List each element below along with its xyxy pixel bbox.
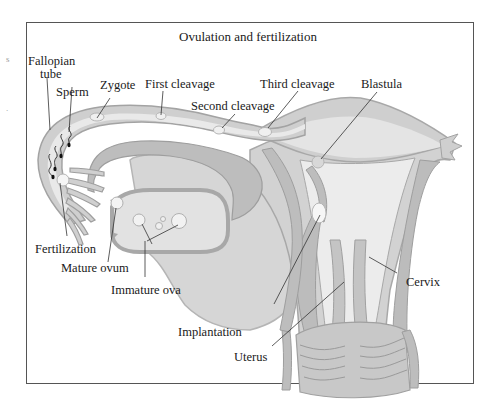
immature-ovum [161,217,166,222]
label-immature-ova: Immature ova [111,284,181,297]
vaginal-wall-left [282,330,292,390]
label-second-cleavage: Second cleavage [191,100,275,113]
ovary [112,190,228,252]
immature-ovum [156,223,163,230]
label-blastula: Blastula [361,78,402,91]
label-fallopian-tube-line2: tube [40,68,62,81]
immature-ovum [133,214,145,226]
label-sperm: Sperm [56,86,89,99]
leader-fallopian-tube [47,78,50,130]
diagram-stage: s . [0,0,497,416]
vagina [296,322,410,398]
fimbriae [66,168,104,245]
zygote-cell [90,113,104,121]
figure-title: Ovulation and fertilization [179,29,317,45]
implanted-embryo [312,203,326,223]
label-zygote: Zygote [100,79,135,92]
mature-ovum [111,197,123,209]
label-fertilization: Fertilization [35,243,96,256]
immature-ovum [172,214,187,229]
third-cleavage-cell [259,128,272,137]
label-uterus: Uterus [234,351,267,364]
label-implantation: Implantation [178,326,242,339]
label-mature-ovum: Mature ovum [61,262,129,275]
label-third-cleavage: Third cleavage [260,78,335,91]
label-fallopian-tube-line1: Fallopian [28,55,75,68]
label-first-cleavage: First cleavage [145,78,215,91]
fertilization-site [57,174,69,186]
label-cervix: Cervix [406,276,440,289]
